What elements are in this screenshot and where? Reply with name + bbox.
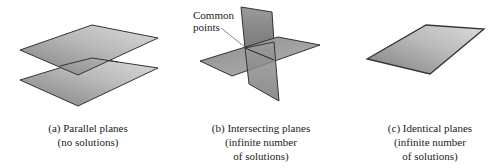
caption-c-line-1: (c) Identical planes xyxy=(350,121,499,135)
common-points-label: Common points xyxy=(193,10,234,33)
caption-b: (b) Intersecting planes (infinite number… xyxy=(181,121,341,163)
caption-a: (a) Parallel planes (no solutions) xyxy=(8,121,168,149)
identical-plane xyxy=(367,25,484,74)
vertical-plane-front xyxy=(245,42,279,101)
caption-b-line-1: (b) Intersecting planes xyxy=(181,121,341,135)
panel-c-identical-planes xyxy=(367,25,484,74)
caption-a-line-1: (a) Parallel planes xyxy=(8,121,168,135)
caption-a-line-2: (no solutions) xyxy=(8,135,168,149)
caption-c-line-3: of solutions) xyxy=(350,149,499,163)
callout-line-1: Common xyxy=(193,10,234,22)
callout-line-2: points xyxy=(193,22,234,34)
panel-a-parallel-planes xyxy=(20,25,158,106)
caption-c: (c) Identical planes (infinite number of… xyxy=(350,121,499,163)
caption-b-line-3: of solutions) xyxy=(181,149,341,163)
caption-c-line-2: (infinite number xyxy=(350,135,499,149)
caption-b-line-2: (infinite number xyxy=(181,135,341,149)
